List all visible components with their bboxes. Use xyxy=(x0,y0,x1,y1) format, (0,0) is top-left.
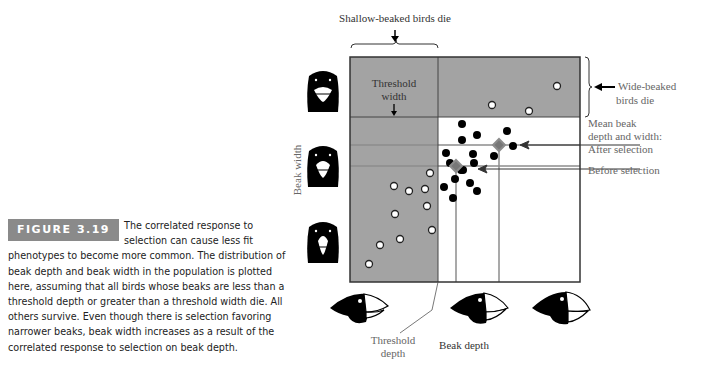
bird-front-medium-icon xyxy=(307,146,339,187)
arrow-down-icon xyxy=(391,36,399,42)
label-threshold-depth-2: depth xyxy=(381,347,406,359)
survivor-points xyxy=(440,120,517,202)
bird-front-icons xyxy=(307,71,339,263)
threshold-depth-pointer xyxy=(400,282,438,333)
label-before: Before selection xyxy=(588,164,660,176)
bird-side-deep-icon xyxy=(532,292,590,324)
mean-after-marker xyxy=(493,139,505,151)
label-mean-2: depth and width: xyxy=(588,130,662,142)
label-wide-die-2: birds die xyxy=(616,94,654,106)
label-threshold-depth-1: Threshold xyxy=(371,334,416,346)
bird-front-wide-icon xyxy=(307,71,339,112)
label-threshold-width-1: Threshold xyxy=(372,77,417,89)
arrow-left-icon xyxy=(594,83,602,91)
bird-side-icons xyxy=(330,292,590,324)
y-axis-label: Beak width xyxy=(291,144,303,195)
x-axis-label: Beak depth xyxy=(439,339,489,351)
label-shallow-die: Shallow-beaked birds die xyxy=(339,12,451,24)
bird-side-shallow-icon xyxy=(330,294,388,323)
label-mean-3: After selection xyxy=(588,143,654,155)
bird-front-narrow-icon xyxy=(307,222,339,263)
label-mean-1: Mean beak xyxy=(588,117,637,129)
label-threshold-width-2: width xyxy=(381,90,407,102)
beak-selection-diagram: Shallow-beaked birds die Threshold width… xyxy=(0,0,713,381)
label-wide-die-1: Wide-beaked xyxy=(618,80,677,92)
bird-side-medium-icon xyxy=(450,293,508,324)
wide-bracket xyxy=(585,57,592,117)
